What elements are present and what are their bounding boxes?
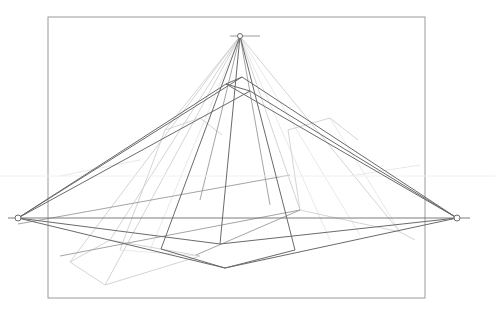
right-vanishing-point-icon — [454, 215, 460, 221]
drawing-canvas — [0, 0, 495, 320]
top-vanishing-point-icon — [238, 34, 243, 39]
left-vanishing-point-icon — [15, 215, 21, 221]
perspective-drawing — [0, 0, 495, 320]
